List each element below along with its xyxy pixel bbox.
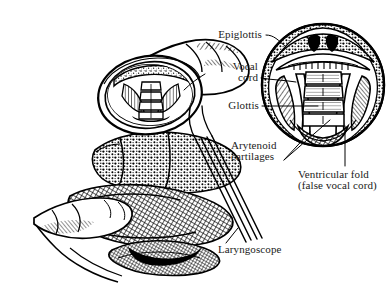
label-epiglottis: Epiglottis bbox=[150, 29, 262, 41]
label-glottis: Glottis bbox=[150, 100, 259, 112]
label-ventricular-fold-line2: (false vocal cord) bbox=[298, 180, 377, 192]
label-laryngoscope: Laryngoscope bbox=[218, 244, 282, 256]
label-vocal-cord-line2: cord bbox=[150, 72, 258, 84]
illustration-canvas bbox=[0, 0, 391, 295]
label-arytenoid-line2: cartilages bbox=[231, 151, 274, 163]
medical-illustration-figure: Epiglottis Vocal cord Glottis Arytenoid … bbox=[0, 0, 391, 295]
